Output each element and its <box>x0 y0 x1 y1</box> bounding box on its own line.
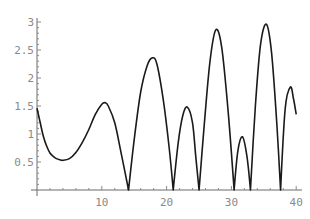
y-tick-label: 1 <box>27 128 34 141</box>
x-tick-label: 30 <box>225 196 238 209</box>
y-tick-label: 3 <box>27 16 34 29</box>
x-tick-label: 40 <box>290 196 303 209</box>
y-tick-label: 0.5 <box>14 156 34 169</box>
y-tick-label: 2 <box>27 72 34 85</box>
x-axis: 10203040 <box>31 186 303 209</box>
y-axis: 0.511.522.53 <box>14 16 41 196</box>
x-tick-label: 10 <box>95 196 108 209</box>
x-tick-label: 20 <box>160 196 173 209</box>
y-tick-label: 2.5 <box>14 44 34 57</box>
line-chart: 0.511.522.53 10203040 <box>0 0 310 219</box>
data-curve <box>37 24 296 190</box>
y-tick-label: 1.5 <box>14 100 34 113</box>
